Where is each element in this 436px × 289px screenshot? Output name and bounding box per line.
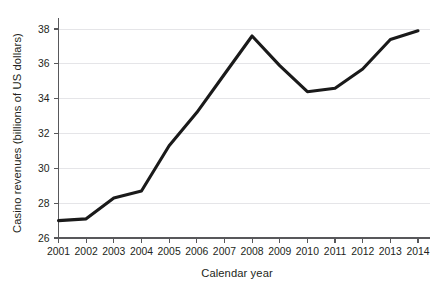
x-tick-label-2007: 2007: [213, 246, 236, 257]
x-tick-label-2012: 2012: [351, 246, 374, 257]
x-tick-label-2010: 2010: [296, 246, 319, 257]
y-tick-label-30: 30: [38, 163, 50, 174]
y-tick-label-26: 26: [38, 233, 50, 244]
x-tick-label-2004: 2004: [130, 246, 153, 257]
x-tick-label-2013: 2013: [379, 246, 402, 257]
x-tick-label-2009: 2009: [268, 246, 291, 257]
chart-canvas: 26283032343638 2001200220032004200520062…: [0, 0, 436, 289]
casino-revenues-line-chart: 26283032343638 2001200220032004200520062…: [0, 0, 436, 289]
y-tick-label-28: 28: [38, 198, 50, 209]
y-axis-title: Casino revenues (billions of US dollars): [11, 33, 23, 233]
x-axis-title: Calendar year: [201, 267, 273, 279]
x-tick-label-2005: 2005: [158, 246, 181, 257]
y-tick-label-32: 32: [38, 128, 50, 139]
y-tick-label-34: 34: [38, 93, 50, 104]
x-tick-label-2001: 2001: [47, 246, 70, 257]
x-tick-label-2011: 2011: [324, 246, 347, 257]
x-tick-label-2003: 2003: [102, 246, 125, 257]
y-tick-label-38: 38: [38, 24, 50, 35]
x-tick-label-2002: 2002: [75, 246, 98, 257]
x-tick-label-2014: 2014: [406, 246, 429, 257]
x-tick-label-2008: 2008: [241, 246, 264, 257]
x-tick-label-2006: 2006: [185, 246, 208, 257]
y-tick-label-36: 36: [38, 58, 50, 69]
